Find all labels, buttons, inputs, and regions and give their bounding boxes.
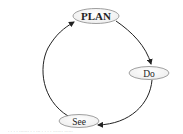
node-do-label: Do xyxy=(143,69,155,79)
arrow-plan-to-do xyxy=(116,21,151,64)
node-plan: PLAN xyxy=(73,9,119,24)
arrow-see-to-plan xyxy=(43,22,74,116)
pdca-cycle-diagram: PLAN Do See xyxy=(0,0,183,134)
figure-caption: . . . . ....... . . ... . . . . ....... … xyxy=(8,128,176,134)
node-see-label: See xyxy=(72,117,86,127)
node-do: Do xyxy=(129,67,169,80)
node-see: See xyxy=(59,115,99,128)
arrow-do-to-see xyxy=(98,80,152,125)
node-plan-label: PLAN xyxy=(81,10,111,22)
